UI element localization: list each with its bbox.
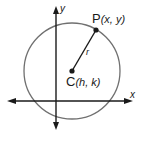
point-p-coords: (x, y) <box>101 13 125 25</box>
radius-line <box>72 30 96 71</box>
y-axis-up-arrow-icon <box>53 6 59 14</box>
y-axis-label: y <box>60 4 65 14</box>
center-c-dot <box>69 68 74 73</box>
center-c-label: C(h, k) <box>66 75 100 88</box>
circle-diagram: y x P(x, y) r C(h, k) <box>0 0 144 142</box>
x-axis-label: x <box>130 90 135 100</box>
radius-label: r <box>86 48 89 57</box>
x-axis-left-arrow-icon <box>7 98 16 104</box>
center-c-coords: (h, k) <box>75 76 100 88</box>
y-axis-down-arrow-icon <box>53 122 59 130</box>
center-c-letter: C <box>66 74 75 89</box>
point-p-letter: P <box>92 11 101 26</box>
point-p-label: P(x, y) <box>92 12 125 25</box>
point-p-dot <box>93 27 98 32</box>
x-axis <box>7 98 133 104</box>
